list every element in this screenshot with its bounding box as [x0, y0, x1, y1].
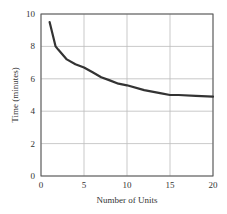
y-axis-label: Time (minutes): [10, 67, 20, 122]
x-axis-label: Number of Units: [97, 195, 158, 205]
x-tick-label: 10: [123, 180, 133, 190]
x-tick-label: 20: [209, 180, 219, 190]
y-tick-label: 6: [31, 74, 36, 84]
x-tick-label: 0: [39, 180, 44, 190]
time-curve: [50, 22, 213, 97]
y-axis-ticks: 0246810: [26, 9, 36, 181]
x-tick-label: 5: [82, 180, 87, 190]
x-axis-ticks: 05101520: [39, 180, 218, 190]
y-tick-label: 4: [31, 106, 36, 116]
y-tick-label: 10: [26, 9, 36, 19]
y-tick-label: 2: [31, 139, 36, 149]
y-tick-label: 8: [31, 41, 36, 51]
x-tick-label: 15: [166, 180, 176, 190]
learning-curve-chart: 05101520 0246810 Number of Units Time (m…: [0, 0, 227, 214]
y-tick-label: 0: [31, 171, 36, 181]
